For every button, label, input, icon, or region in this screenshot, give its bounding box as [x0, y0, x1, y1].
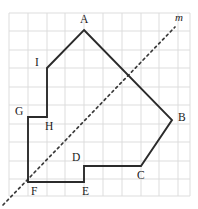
vertex-label-c: C — [137, 170, 145, 182]
geometry-figure: A B C D E F G H I m — [0, 0, 198, 209]
vertex-label-a: A — [80, 14, 88, 26]
vertex-label-h: H — [45, 121, 53, 133]
polygon-abcdefghi — [28, 30, 172, 182]
mirror-line-label-m: m — [175, 12, 183, 23]
figure-canvas — [0, 0, 198, 209]
vertex-label-b: B — [178, 112, 186, 124]
vertex-label-d: D — [72, 152, 80, 164]
vertex-label-g: G — [15, 106, 23, 118]
vertex-label-i: I — [35, 57, 39, 69]
vertex-label-f: F — [31, 186, 37, 198]
vertex-label-e: E — [82, 186, 89, 198]
